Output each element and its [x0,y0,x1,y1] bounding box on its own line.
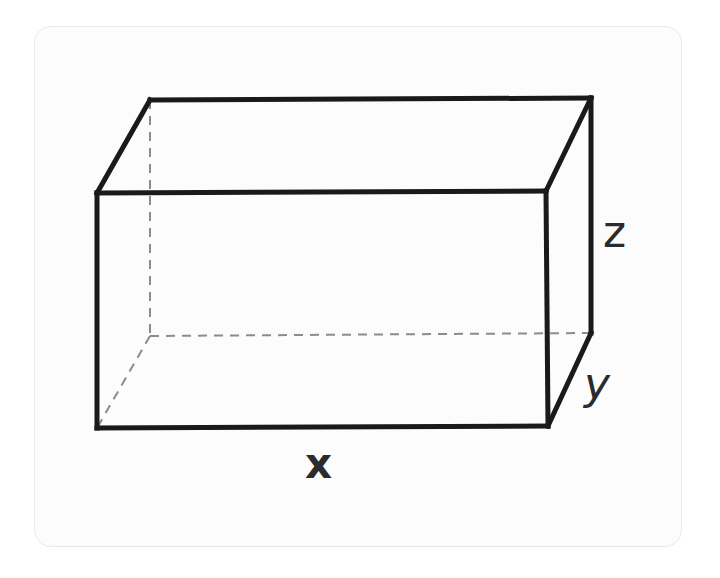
solid-edge-front-right-vertical [546,191,548,426]
hidden-edges-group [97,100,591,428]
edge-label-z: z [603,210,626,254]
solid-edge-front-bottom [97,426,548,428]
prism-svg [0,0,720,578]
figure-root: x y z [0,0,720,578]
solid-edge-top-left-depth [97,100,150,193]
edge-label-y: y [584,362,610,406]
prism-drawing-stage [0,0,720,578]
solid-edge-top-right-depth [546,98,591,191]
solid-edge-front-top [97,191,546,193]
edge-label-x: x [305,443,332,485]
solid-edges-group [97,98,591,428]
hidden-edge-bottom-left-depth [97,336,150,428]
solid-edge-back-top [150,98,591,100]
hidden-edge-back-bottom [150,333,591,336]
